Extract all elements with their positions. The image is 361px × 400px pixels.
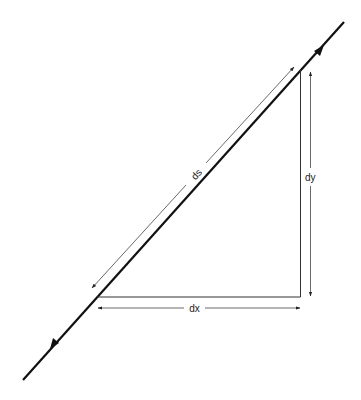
dx-label: dx	[189, 303, 200, 314]
dx-dimension-arrow: dx	[98, 303, 300, 314]
direction-arrow-down-icon	[50, 338, 59, 349]
diagram-canvas: ds dy dx	[0, 0, 361, 400]
dy-dimension-arrow: dy	[305, 72, 316, 296]
ds-dimension-arrow: ds	[92, 67, 294, 288]
dy-label: dy	[305, 172, 316, 183]
curve-line	[23, 22, 344, 380]
